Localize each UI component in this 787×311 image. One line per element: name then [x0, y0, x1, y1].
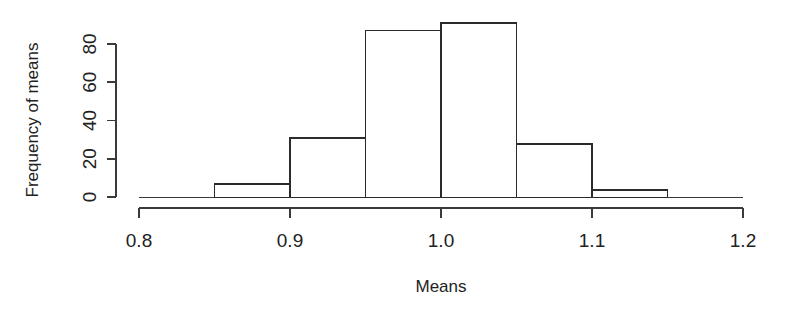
- x-tick-label-1-2: 1.2: [730, 230, 756, 251]
- histogram-plot: 80 60 40 20 0 Frequency of means 0.8 0.9…: [0, 0, 787, 311]
- x-tick-label-1-1: 1.1: [579, 230, 605, 251]
- x-tick-label-1-0: 1.0: [428, 230, 454, 251]
- x-axis-title: Means: [415, 277, 466, 296]
- y-tick-label-20: 20: [79, 148, 100, 169]
- x-tick-label-0-9: 0.9: [277, 230, 303, 251]
- y-axis-title: Frequency of means: [23, 43, 42, 198]
- y-tick-label-40: 40: [79, 110, 100, 131]
- y-tick-label-80: 80: [79, 33, 100, 54]
- plot-background: [0, 0, 787, 311]
- y-tick-label-0: 0: [79, 192, 100, 203]
- y-tick-label-60: 60: [79, 72, 100, 93]
- histogram-canvas: 80 60 40 20 0 Frequency of means 0.8 0.9…: [0, 0, 787, 311]
- x-tick-label-0-8: 0.8: [126, 230, 152, 251]
